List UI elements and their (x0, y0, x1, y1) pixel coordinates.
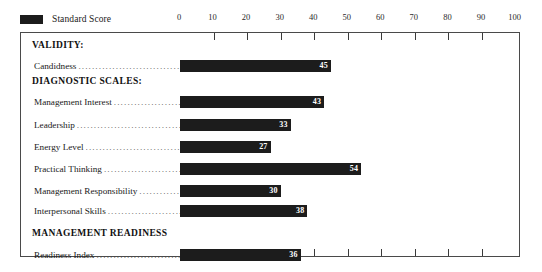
scale-label: Interpersonal Skills....................… (34, 206, 180, 216)
score-value: 36 (289, 251, 297, 259)
scale-label-text: Energy Level (34, 142, 84, 152)
scale-label-text: Practical Thinking (34, 164, 102, 174)
score-value: 30 (269, 187, 277, 195)
scale-row-interpersonal-skills: Interpersonal Skills....................… (21, 203, 519, 219)
dotted-leader: ........................................… (114, 98, 180, 107)
scale-label: Practical Thinking......................… (34, 164, 180, 174)
dotted-leader: ........................................… (96, 251, 180, 260)
x-axis-tick-label: 10 (208, 12, 217, 22)
scale-label: Energy Level............................… (34, 142, 180, 152)
score-bar: 30 (180, 185, 281, 197)
scale-label: Leadership..............................… (34, 120, 180, 130)
x-axis-tick-label: 0 (177, 12, 181, 22)
scale-label-text: Readiness Index (34, 250, 94, 260)
score-bar: 43 (180, 96, 324, 108)
chart-rows: VALIDITY:Candidness.....................… (21, 33, 519, 256)
scale-label: Management Interest.....................… (34, 97, 180, 107)
scale-row-leadership: Leadership..............................… (21, 117, 519, 133)
scale-label: Readiness Index.........................… (34, 250, 180, 260)
score-bar: 27 (180, 141, 271, 153)
dotted-leader: ........................................… (78, 62, 180, 71)
score-bar: 38 (180, 205, 307, 217)
scale-label-text: Interpersonal Skills (34, 206, 106, 216)
score-bar: 33 (180, 119, 291, 131)
score-bar: 45 (180, 60, 331, 72)
standard-score-bar-chart: Standard Score 0102030405060708090100 VA… (0, 0, 542, 272)
dotted-leader: ........................................… (86, 143, 180, 152)
section-header-validity: VALIDITY: (21, 38, 519, 52)
x-axis-tick-label: 20 (242, 12, 251, 22)
scale-row-energy-level: Energy Level............................… (21, 139, 519, 155)
dotted-leader: ........................................… (108, 207, 180, 216)
section-header-management-readiness: MANAGEMENT READINESS (21, 226, 519, 240)
chart-plot-frame: VALIDITY:Candidness.....................… (20, 32, 520, 257)
scale-label: Candidness..............................… (34, 61, 180, 71)
x-axis-tick-label: 100 (508, 12, 521, 22)
score-value: 45 (320, 62, 328, 70)
x-axis-tick-label: 30 (275, 12, 284, 22)
scale-row-practical-thinking: Practical Thinking......................… (21, 161, 519, 177)
x-axis-tick-labels: 0102030405060708090100 (0, 12, 542, 26)
x-axis-tick-label: 60 (376, 12, 385, 22)
x-axis-tick-label: 40 (309, 12, 318, 22)
x-axis-tick-label: 50 (343, 12, 352, 22)
dotted-leader: ........................................… (104, 165, 180, 174)
dotted-leader: ........................................… (139, 187, 180, 196)
score-value: 43 (313, 98, 321, 106)
scale-row-management-responsibility: Management Responsibility...............… (21, 183, 519, 199)
score-value: 27 (259, 143, 267, 151)
x-axis-tick-label: 70 (410, 12, 419, 22)
section-header-diagnostic-scales: DIAGNOSTIC SCALES: (21, 74, 519, 88)
scale-label-text: Management Responsibility (34, 186, 137, 196)
dotted-leader: ........................................… (77, 121, 180, 130)
score-value: 54 (350, 165, 358, 173)
score-value: 33 (279, 121, 287, 129)
score-bar: 36 (180, 249, 301, 261)
x-axis-tick-label: 90 (477, 12, 486, 22)
section-title: DIAGNOSTIC SCALES: (21, 76, 142, 86)
scale-label-text: Candidness (34, 61, 76, 71)
scale-row-management-interest: Management Interest.....................… (21, 94, 519, 110)
x-axis-tick-label: 80 (443, 12, 452, 22)
scale-label-text: Leadership (34, 120, 75, 130)
score-value: 38 (296, 207, 304, 215)
section-title: VALIDITY: (21, 40, 84, 50)
scale-label: Management Responsibility...............… (34, 186, 180, 196)
scale-label-text: Management Interest (34, 97, 112, 107)
section-title: MANAGEMENT READINESS (21, 228, 167, 238)
scale-row-candidness: Candidness..............................… (21, 58, 519, 74)
score-bar: 54 (180, 163, 361, 175)
scale-row-readiness-index: Readiness Index.........................… (21, 247, 519, 263)
